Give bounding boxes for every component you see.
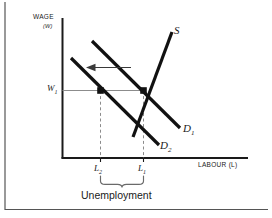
labour-2-tick-label: L2 (94, 164, 102, 175)
supply-curve (133, 32, 172, 137)
labour-2-subscript: 2 (99, 169, 102, 175)
equilibrium-point-1-marker (140, 87, 147, 94)
wage-1-symbol: W (47, 83, 55, 93)
y-axis-title: WAGE (33, 14, 54, 21)
diagram-canvas (0, 0, 272, 218)
figure-caption: Unemployment (81, 190, 152, 201)
point-on-d2-marker (97, 87, 104, 94)
labour-1-subscript: 1 (143, 169, 146, 175)
demand-curve-1-label: D1 (183, 123, 194, 137)
demand-2-symbol: D (160, 139, 168, 151)
x-axis-title: LABOUR (L) (198, 162, 237, 169)
supply-curve-label: S (174, 25, 180, 36)
y-axis-unit: (W) (43, 24, 52, 30)
demand-curve-2-label: D2 (160, 140, 171, 154)
demand-1-symbol: D (183, 122, 191, 134)
wage-1-subscript: 1 (55, 89, 58, 95)
demand-curve-1 (92, 41, 180, 128)
demand-1-subscript: 1 (191, 129, 195, 137)
unemployment-brace (101, 176, 144, 188)
demand-2-subscript: 2 (168, 146, 172, 154)
labour-1-tick-label: L1 (138, 164, 146, 175)
leftward-shift-arrow (86, 64, 131, 71)
unemployment-diagram-figure: WAGE (W) LABOUR (L) W1 L2 L1 S D1 D2 Une… (0, 0, 272, 218)
wage-1-tick-label: W1 (47, 84, 58, 95)
